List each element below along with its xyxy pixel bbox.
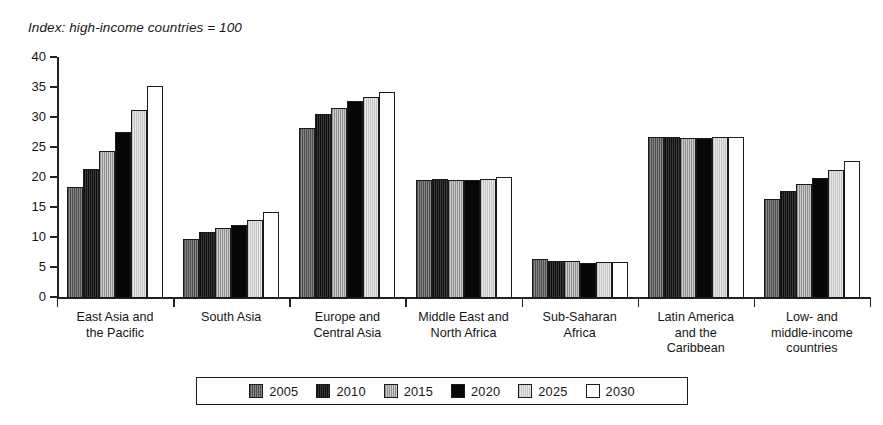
legend-swatch-icon xyxy=(384,384,398,398)
x-axis-category-label: Europe andCentral Asia xyxy=(289,310,405,341)
y-axis-tick xyxy=(50,146,57,147)
bar xyxy=(331,108,347,298)
bar-group xyxy=(183,57,279,298)
x-axis-category-label-line: Caribbean xyxy=(638,341,754,357)
legend-swatch-icon xyxy=(586,384,600,398)
legend-label: 2015 xyxy=(404,384,433,399)
legend-item[interactable]: 2030 xyxy=(577,384,644,399)
legend-item[interactable]: 2005 xyxy=(240,384,307,399)
x-axis-tick xyxy=(173,299,174,307)
y-axis-tick xyxy=(50,236,57,237)
bar xyxy=(764,199,780,298)
x-axis-category-label-line: Latin America xyxy=(638,310,754,326)
bar xyxy=(664,137,680,298)
bar xyxy=(844,161,860,298)
bar xyxy=(183,239,199,298)
bar-group xyxy=(416,57,512,298)
x-axis-category-label-line: North Africa xyxy=(405,326,521,342)
bar xyxy=(680,138,696,298)
x-axis-tick xyxy=(638,299,639,307)
bar xyxy=(448,180,464,298)
y-axis-tick-label: 5 xyxy=(6,260,46,273)
x-axis-category-label-line: Africa xyxy=(522,326,638,342)
legend-label: 2030 xyxy=(606,384,635,399)
legend-item[interactable]: 2025 xyxy=(509,384,576,399)
bar xyxy=(416,180,432,298)
y-axis-tick xyxy=(50,266,57,267)
chart-title: Index: high-income countries = 100 xyxy=(28,20,242,35)
bar-group xyxy=(67,57,163,298)
x-axis-category-label-line: South Asia xyxy=(173,310,289,326)
bar xyxy=(648,137,664,298)
bar xyxy=(99,151,115,298)
bar xyxy=(728,137,744,298)
x-axis-category-label-line: Middle East and xyxy=(405,310,521,326)
bar-group xyxy=(648,57,744,298)
bar xyxy=(83,169,99,298)
y-axis-tick-label: 40 xyxy=(6,50,46,63)
y-axis-tick-label: 25 xyxy=(6,140,46,153)
bar xyxy=(247,220,263,298)
legend-swatch-icon xyxy=(316,384,330,398)
y-axis-tick-label: 35 xyxy=(6,80,46,93)
legend-label: 2010 xyxy=(336,384,365,399)
y-axis-tick-label: 0 xyxy=(6,290,46,303)
bar-group xyxy=(299,57,395,298)
bar xyxy=(363,97,379,298)
bar xyxy=(696,138,712,298)
y-axis-tick xyxy=(50,296,57,297)
chart-figure: Index: high-income countries = 100 40353… xyxy=(0,0,883,425)
legend-item[interactable]: 2020 xyxy=(442,384,509,399)
y-axis-tick xyxy=(50,206,57,207)
bar xyxy=(548,261,564,298)
x-axis-category-label: Middle East andNorth Africa xyxy=(405,310,521,341)
chart-legend: 200520102015202020252030 xyxy=(196,377,688,405)
y-axis-labels: 4035302520151050 xyxy=(0,0,46,425)
bar xyxy=(480,179,496,298)
x-axis-category-label: Latin Americaand theCaribbean xyxy=(638,310,754,357)
bar xyxy=(199,232,215,298)
bar xyxy=(464,180,480,298)
legend-swatch-icon xyxy=(451,384,465,398)
bar xyxy=(315,114,331,298)
x-axis-category-label-line: Low- and xyxy=(754,310,870,326)
y-axis-tick-label: 30 xyxy=(6,110,46,123)
x-axis-tick xyxy=(522,299,523,307)
bar xyxy=(147,86,163,298)
x-axis-tick xyxy=(57,299,58,307)
x-axis-category-label-line: East Asia and xyxy=(57,310,173,326)
x-axis-category-label: Sub-SaharanAfrica xyxy=(522,310,638,341)
x-axis-category-label-line: Central Asia xyxy=(289,326,405,342)
y-axis-tick-label: 15 xyxy=(6,200,46,213)
bar xyxy=(299,128,315,298)
bar-group xyxy=(532,57,628,298)
bar xyxy=(612,262,628,298)
x-axis-category-label-line: the Pacific xyxy=(57,326,173,342)
bar xyxy=(780,191,796,298)
legend-item[interactable]: 2010 xyxy=(307,384,374,399)
legend-swatch-icon xyxy=(518,384,532,398)
bar xyxy=(131,110,147,298)
y-axis-tick xyxy=(50,176,57,177)
x-axis-category-label: Low- andmiddle-incomecountries xyxy=(754,310,870,357)
legend-swatch-icon xyxy=(249,384,263,398)
x-axis-category-label-line: Europe and xyxy=(289,310,405,326)
bar xyxy=(231,225,247,298)
bar xyxy=(496,177,512,298)
legend-label: 2005 xyxy=(269,384,298,399)
legend-item[interactable]: 2015 xyxy=(375,384,442,399)
bar xyxy=(215,228,231,298)
y-axis-tick-label: 10 xyxy=(6,230,46,243)
bar xyxy=(796,184,812,298)
x-axis-category-label: South Asia xyxy=(173,310,289,326)
x-axis-category-label-line: countries xyxy=(754,341,870,357)
y-axis-tick-label: 20 xyxy=(6,170,46,183)
x-axis-category-label-line: Sub-Saharan xyxy=(522,310,638,326)
bar xyxy=(812,178,828,298)
bar xyxy=(596,262,612,298)
y-axis-tick xyxy=(50,56,57,57)
bar xyxy=(115,132,131,298)
bar xyxy=(580,263,596,298)
legend-label: 2020 xyxy=(471,384,500,399)
bar xyxy=(532,259,548,298)
